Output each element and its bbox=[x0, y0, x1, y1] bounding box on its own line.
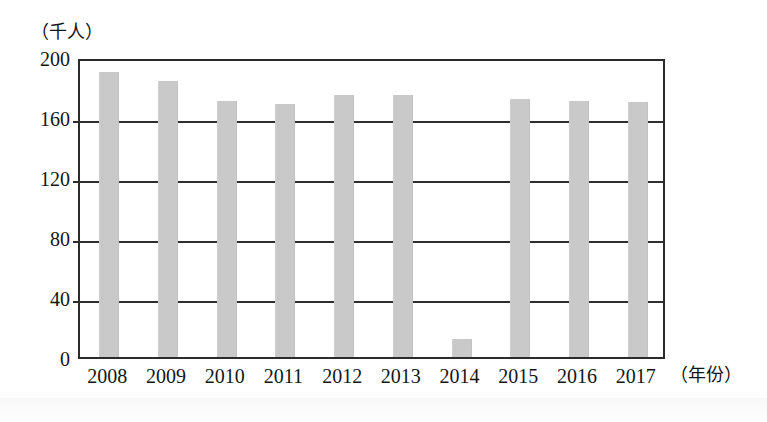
x-axis-tick-label: 2016 bbox=[557, 364, 597, 388]
x-axis-tick-label-group: 2008200920102011201220132014201520162017 bbox=[78, 364, 665, 394]
y-axis-tick-label-group: 04080120160200 bbox=[0, 0, 70, 422]
y-axis-tick-label: 40 bbox=[50, 289, 70, 309]
bar-chart-figure: （千人） 04080120160200 20082009201020112012… bbox=[0, 0, 767, 422]
bar bbox=[393, 95, 413, 358]
y-axis-tick-label: 80 bbox=[50, 229, 70, 249]
y-axis-tick-mark bbox=[73, 121, 80, 123]
y-axis-tick-label: 0 bbox=[60, 349, 70, 369]
x-axis-tick-label: 2012 bbox=[322, 364, 362, 388]
bar bbox=[334, 95, 354, 358]
x-axis-tick-label: 2009 bbox=[146, 364, 186, 388]
x-axis-unit-label: （年份） bbox=[670, 363, 742, 387]
bar bbox=[275, 104, 295, 358]
y-axis-tick-label: 160 bbox=[40, 109, 70, 129]
x-axis-tick-label: 2014 bbox=[440, 364, 480, 388]
bar bbox=[510, 99, 530, 357]
bar bbox=[158, 81, 178, 357]
y-axis-tick-mark bbox=[73, 181, 80, 183]
plot-area bbox=[78, 59, 665, 359]
x-axis-tick-label: 2015 bbox=[498, 364, 538, 388]
x-axis-tick-label: 2011 bbox=[264, 364, 303, 388]
y-axis-tick-label: 200 bbox=[40, 49, 70, 69]
bar bbox=[628, 102, 648, 357]
x-axis-tick-label: 2010 bbox=[205, 364, 245, 388]
bar bbox=[99, 72, 119, 357]
x-axis-tick-label: 2008 bbox=[87, 364, 127, 388]
bar bbox=[452, 339, 472, 357]
y-axis-tick-mark bbox=[73, 301, 80, 303]
bar bbox=[217, 101, 237, 358]
y-axis-tick-mark bbox=[73, 241, 80, 243]
bar bbox=[569, 101, 589, 358]
x-axis-tick-label: 2017 bbox=[616, 364, 656, 388]
y-axis-tick-label: 120 bbox=[40, 169, 70, 189]
x-axis-tick-label: 2013 bbox=[381, 364, 421, 388]
scan-artifact bbox=[0, 398, 767, 422]
